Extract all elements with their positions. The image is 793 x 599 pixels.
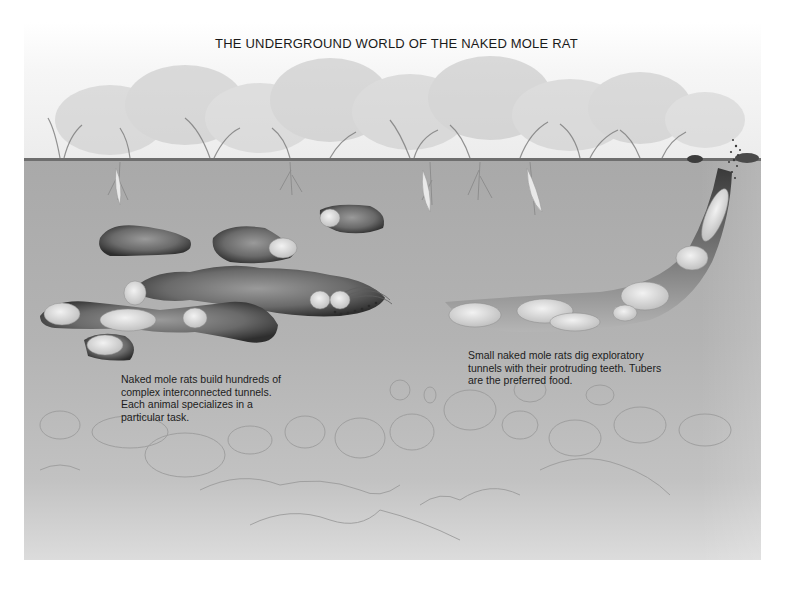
mole-rat: [269, 238, 297, 258]
caption-line: complex interconnected tunnels.: [121, 386, 321, 399]
caption-line: tunnels with their protruding teeth. Tub…: [468, 362, 728, 375]
tunnel-chamber: [99, 225, 191, 256]
caption-line: Naked mole rats build hundreds of: [121, 373, 321, 386]
caption-exploratory-tunnel: Small naked mole rats dig exploratory tu…: [468, 349, 728, 387]
soil-mound: [687, 155, 703, 163]
mole-rat: [330, 291, 350, 309]
caption-line: particular task.: [121, 411, 321, 424]
mole-rat: [449, 303, 501, 327]
naked-mole-rat-illustration: THE UNDERGROUND WORLD OF THE NAKED MOLE …: [0, 0, 793, 599]
mole-rat: [124, 281, 146, 305]
mole-rat: [44, 303, 80, 325]
mole-rat: [550, 313, 600, 331]
mole-rat: [100, 309, 156, 331]
mole-rat: [183, 308, 207, 328]
colony-tunnel-system: [40, 205, 392, 361]
tubers: [116, 168, 543, 212]
caption-colony-tunnels: Naked mole rats build hundreds of comple…: [121, 373, 321, 423]
tuber-icon: [116, 168, 121, 205]
mole-rat: [310, 291, 330, 309]
illustration-artwork: [0, 0, 793, 599]
mole-rat: [320, 209, 340, 227]
mole-rat: [676, 246, 708, 270]
caption-line: Each animal specializes in a: [121, 398, 321, 411]
exploratory-tunnel: [445, 168, 734, 332]
caption-line: are the preferred food.: [468, 374, 728, 387]
mole-rat: [613, 305, 637, 321]
figure-title: THE UNDERGROUND WORLD OF THE NAKED MOLE …: [0, 36, 793, 51]
roots: [108, 162, 535, 215]
caption-line: Small naked mole rats dig exploratory: [468, 349, 728, 362]
vegetation: [55, 56, 745, 155]
mole-rat: [87, 335, 123, 355]
tuber-icon: [422, 170, 430, 212]
